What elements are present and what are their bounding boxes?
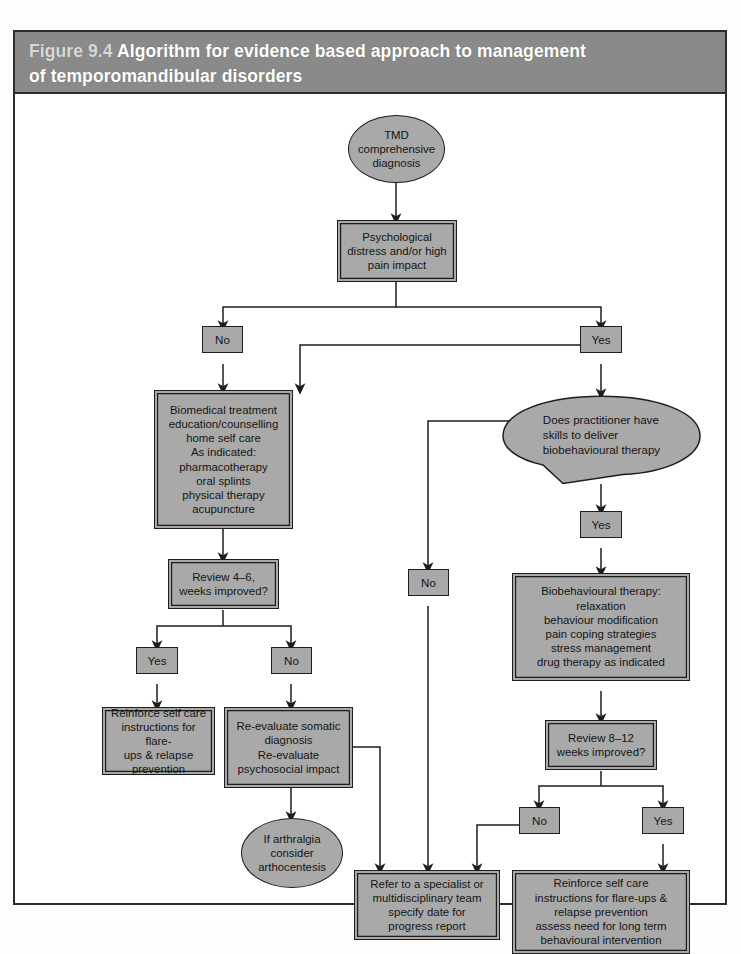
node-arthralgia: If arthralgia consider arthocentesis <box>241 818 343 888</box>
node-review-8-12-text: Review 8–12 weeks improved? <box>557 731 646 759</box>
node-biomedical-treatment-text: Biomedical treatment education/counselli… <box>169 403 279 517</box>
node-review-4-6: Review 4–6, weeks improved? <box>168 559 279 609</box>
node-review-8-12: Review 8–12 weeks improved? <box>545 720 657 770</box>
node-reinforce-self-care-right: Reinforce self care instructions for fla… <box>512 870 690 954</box>
speech-bubble-shape <box>499 394 704 486</box>
node-biobehavioural-therapy: Biobehavioural therapy: relaxation behav… <box>512 573 690 681</box>
node-reinforce-self-care-right-text: Reinforce self care instructions for fla… <box>535 876 667 947</box>
figure-frame: Figure 9.4 Algorithm for evidence based … <box>13 30 727 905</box>
node-reevaluate-somatic-text: Re-evaluate somatic diagnosis Re-evaluat… <box>237 719 341 776</box>
node-psychological-distress-text: Psychological distress and/or high pain … <box>347 230 446 273</box>
node-reinforce-self-care-left-text: Reinforce self care instructions for fla… <box>111 706 206 777</box>
node-arthralgia-text: If arthralgia consider arthocentesis <box>258 832 326 875</box>
figure-header: Figure 9.4 Algorithm for evidence based … <box>15 32 725 94</box>
flowchart-canvas: TMD comprehensive diagnosis Psychologica… <box>15 94 725 903</box>
label-skills-yes: Yes <box>580 511 622 538</box>
figure-title-part-1: Algorithm for evidence based approach to… <box>117 41 586 61</box>
label-review46-yes: Yes <box>136 647 178 674</box>
node-biomedical-treatment: Biomedical treatment education/counselli… <box>154 390 293 529</box>
label-skills-no: No <box>408 569 449 596</box>
node-practitioner-skills: Does practitioner have skills to deliver… <box>499 394 704 486</box>
node-psychological-distress: Psychological distress and/or high pain … <box>337 220 457 282</box>
figure-title-line-1: Figure 9.4 Algorithm for evidence based … <box>29 39 711 64</box>
node-reinforce-self-care-left: Reinforce self care instructions for fla… <box>102 707 215 775</box>
node-tmd-diagnosis: TMD comprehensive diagnosis <box>348 115 445 183</box>
label-review46-no: No <box>271 647 312 674</box>
label-psych-no: No <box>202 326 243 353</box>
label-review812-yes: Yes <box>642 807 684 834</box>
node-refer-specialist-text: Refer to a specialist or multidisciplina… <box>370 877 483 934</box>
node-reevaluate-somatic: Re-evaluate somatic diagnosis Re-evaluat… <box>224 707 353 788</box>
node-biobehavioural-therapy-text: Biobehavioural therapy: relaxation behav… <box>537 584 665 669</box>
label-review812-no: No <box>519 807 560 834</box>
figure-number: Figure 9.4 <box>29 41 113 61</box>
figure-title-line-2: of temporomandibular disorders <box>29 64 711 89</box>
node-tmd-diagnosis-text: TMD comprehensive diagnosis <box>358 128 435 171</box>
label-psych-yes: Yes <box>580 326 622 353</box>
node-review-4-6-text: Review 4–6, weeks improved? <box>179 570 268 598</box>
node-refer-specialist: Refer to a specialist or multidisciplina… <box>354 870 500 940</box>
flowchart-connectors <box>15 94 725 903</box>
